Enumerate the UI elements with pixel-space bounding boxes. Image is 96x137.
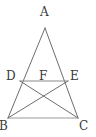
vertex-label-A: A [40,6,49,18]
vertex-label-D: D [6,70,16,82]
vertex-label-F: F [39,70,47,82]
cevian-EB-line [8,81,68,118]
vertex-label-C: C [79,120,88,132]
vertex-label-E: E [70,70,79,82]
vertex-label-B: B [0,120,8,132]
cevian-DC-line [20,81,78,118]
geometry-figure: A B C D E F [0,0,96,137]
